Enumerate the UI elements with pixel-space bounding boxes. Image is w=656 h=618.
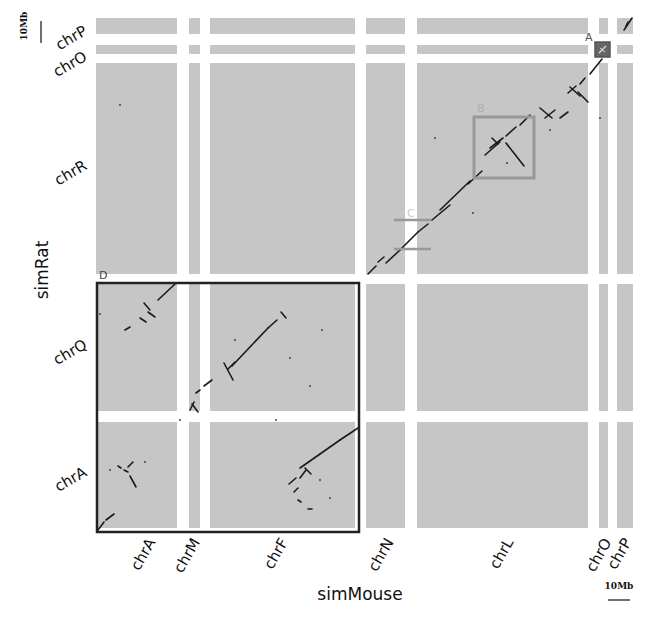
cell-chrL-chrO [417,45,588,54]
cell-chrN-chrQ [366,284,405,411]
alignment-dot [119,104,121,106]
cell-chrN-chrO [366,45,405,54]
cell-chrM-chrA [189,422,200,528]
y-chromosome-labels: chrPchrOchrRchrQchrA [50,22,91,496]
y-label-chrO: chrO [50,47,90,80]
alignment-dot [506,162,508,164]
x-axis-label: simMouse [317,584,402,604]
x-scale-label: 10Mb [605,581,634,591]
x-label-chrL: chrL [486,534,518,572]
cell-chrP-chrA [617,422,633,528]
cell-chrF-chrR [210,63,355,274]
cell-chrO-chrA [599,422,608,528]
alignment-dot [321,329,323,331]
cell-chrF-chrP [210,18,355,34]
cell-chrA-chrR [96,63,177,274]
cell-chrL-chrQ [417,284,588,411]
cell-chrA-chrO [96,45,177,54]
box-label: D [99,269,107,282]
highlight-box-a: A [585,31,610,57]
y-scale-bar: 10Mb [19,12,41,43]
cell-chrN-chrA [366,422,405,528]
y-label-chrP: chrP [52,22,90,54]
cell-chrM-chrP [189,18,200,34]
cell-chrA-chrP [96,18,177,34]
alignment-dot [179,419,181,421]
box-label: C [407,207,415,220]
x-label-chrF: chrF [260,535,292,572]
alignment-dot [99,313,101,315]
cell-chrF-chrQ [210,284,355,411]
dot-plot: ABCD chrPchrOchrRchrQchrA chrAchrMchrFch… [0,0,656,618]
alignment-dot [144,461,146,463]
x-chromosome-labels: chrAchrMchrFchrNchrLchrOchrP [127,534,636,576]
cell-chrN-chrP [366,18,405,34]
cell-chrP-chrR [617,63,633,274]
x-label-chrA: chrA [127,534,160,573]
alignment-dot [434,137,436,139]
y-axis-label: simRat [32,240,52,299]
cell-chrM-chrR [189,63,200,274]
cell-chrM-chrO [189,45,200,54]
cell-chrO-chrR [599,63,608,274]
chromosome-grid [96,18,633,528]
cell-chrO-chrP [599,18,608,34]
y-label-chrA: chrA [51,463,90,496]
alignment-dot [472,212,474,214]
cell-chrA-chrQ [96,284,177,411]
cell-chrN-chrR [366,63,405,274]
alignment-dot [329,497,331,499]
alignment-dot [289,357,291,359]
y-label-chrQ: chrQ [50,335,90,368]
cell-chrL-chrR [417,63,588,274]
cell-chrL-chrP [417,18,588,34]
alignment-dot [275,419,277,421]
cell-chrO-chrQ [599,284,608,411]
x-label-chrN: chrN [364,535,397,574]
cell-chrF-chrA [210,422,355,528]
cell-chrF-chrO [210,45,355,54]
x-label-chrM: chrM [170,535,204,576]
cell-chrA-chrA [96,422,177,528]
alignment-dot [109,469,111,471]
box-label: B [477,102,485,115]
cell-chrP-chrO [617,45,633,54]
y-scale-label: 10Mb [19,12,29,41]
alignment-dot [309,385,311,387]
x-scale-bar: 10Mb [605,581,634,600]
alignment-dot [549,129,551,131]
cell-chrP-chrQ [617,284,633,411]
cell-chrL-chrA [417,422,588,528]
alignment-dot [234,339,236,341]
alignment-dot [599,117,601,119]
y-label-chrR: chrR [51,156,90,189]
alignment-dot [319,479,321,481]
box-label: A [585,31,593,44]
